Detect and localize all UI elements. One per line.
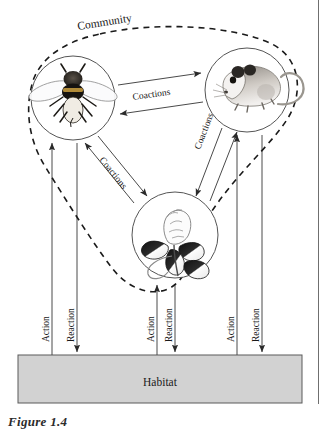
node-mouse — [205, 48, 304, 132]
node-bee — [27, 56, 120, 140]
habitat-label: Habitat — [143, 376, 178, 388]
coaction-bee-flower: Coactions — [85, 136, 147, 203]
action-label-mouse: Action — [226, 316, 236, 342]
figure-caption: Figure 1.4 — [8, 414, 67, 430]
reaction-label-bee: Reaction — [66, 308, 76, 342]
coaction-label-mouse-flower: Coactions — [193, 111, 216, 150]
coaction-bee-mouse: Coactions — [118, 73, 203, 114]
habitat-link-mouse: Action Reaction — [226, 135, 262, 355]
coaction-arrow-bee-to-mouse — [118, 73, 201, 85]
action-label-bee: Action — [41, 316, 51, 342]
habitat-link-flower: Action Reaction — [146, 285, 175, 355]
habitat-box: Habitat — [18, 355, 302, 403]
habitat-link-bee: Action Reaction — [41, 143, 77, 355]
figure-container: Habitat Action Reaction Action Reaction … — [0, 0, 320, 433]
ecosystem-diagram: Habitat Action Reaction Action Reaction … — [0, 0, 320, 404]
node-flower — [132, 192, 218, 279]
reaction-label-flower: Reaction — [164, 308, 174, 342]
reaction-label-mouse: Reaction — [251, 308, 261, 342]
action-label-flower: Action — [146, 316, 156, 342]
coaction-arrow-mouse-to-bee — [120, 102, 203, 114]
coaction-arrow-flower-to-mouse — [210, 132, 237, 201]
coaction-label-bee-mouse: Coactions — [132, 87, 171, 102]
coaction-label-bee-flower: Coactions — [97, 155, 129, 191]
